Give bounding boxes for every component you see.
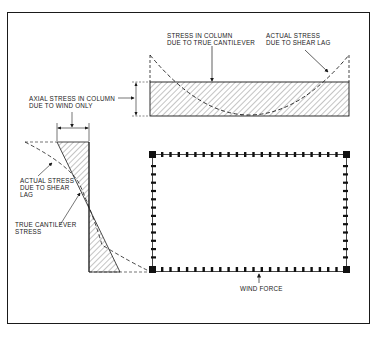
web-stress-diagram <box>25 112 151 272</box>
label-wind-force: WIND FORCE <box>240 285 283 292</box>
framed-tube-plan <box>149 151 350 283</box>
corner-column <box>343 151 350 158</box>
corner-column <box>149 151 156 158</box>
label-actual-stress-left-2: DUE TO SHEAR <box>20 184 70 191</box>
label-true-cantilever-1: TRUE CANTILEVER <box>15 221 77 228</box>
label-stress-true-cantilever-1: STRESS IN COLUMN <box>167 32 233 39</box>
label-actual-stress-top-1: ACTUAL STRESS <box>266 32 320 39</box>
label-actual-stress-left-3: LAG <box>20 191 33 198</box>
label-actual-stress-top-2: DUE TO SHEAR LAG <box>266 39 331 46</box>
label-stress-true-cantilever-2: DUE TO TRUE CANTILEVER <box>167 39 255 46</box>
label-actual-stress-left-1: ACTUAL STRESS <box>20 177 74 184</box>
corner-column <box>343 266 350 273</box>
outer-frame <box>8 13 370 324</box>
uniform-stress-band <box>150 82 349 116</box>
label-true-cantilever-2: STRESS <box>15 228 41 235</box>
label-axial-stress-1: AXIAL STRESS IN COLUMN <box>29 95 115 102</box>
corner-column <box>149 266 156 273</box>
label-axial-stress-2: DUE TO WIND ONLY <box>29 102 93 109</box>
flange-stress-diagram <box>118 46 349 116</box>
shear-lag-diagram: STRESS IN COLUMN DUE TO TRUE CANTILEVER … <box>0 0 379 339</box>
tension-wedge <box>89 208 120 272</box>
